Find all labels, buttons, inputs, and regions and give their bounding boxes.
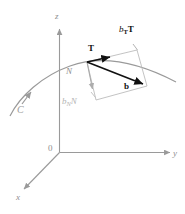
component-parallelogram [87, 50, 147, 100]
x-axis [24, 153, 60, 190]
parallelogram-side-bottom [96, 86, 147, 100]
normal-component-label: bNN [62, 97, 77, 107]
tangent-vector-label: T [88, 44, 94, 53]
vector-decomposition-figure: z y x 0 C T N b bTT bNN [0, 0, 185, 214]
normal-component-unit: N [71, 96, 77, 106]
parallelogram-side-right [137, 50, 147, 86]
tangential-component-unit: T [128, 24, 134, 34]
y-axis-label: y [173, 149, 177, 158]
tangential-component-label: bTT [119, 25, 134, 35]
coordinate-axes [24, 29, 170, 189]
normal-vector-line [87, 62, 93, 89]
curve-label: C [17, 105, 24, 115]
x-axis-label: x [16, 193, 20, 202]
z-axis-label: z [55, 12, 59, 21]
resultant-vector-label: b [124, 82, 129, 91]
normal-vector-label: N [66, 67, 72, 76]
figure-canvas [0, 0, 185, 214]
normal-vector-gray [87, 62, 93, 89]
tangential-component-leader-line [133, 44, 138, 50]
origin-label: 0 [48, 144, 53, 153]
tangential-component-leader [133, 44, 138, 50]
